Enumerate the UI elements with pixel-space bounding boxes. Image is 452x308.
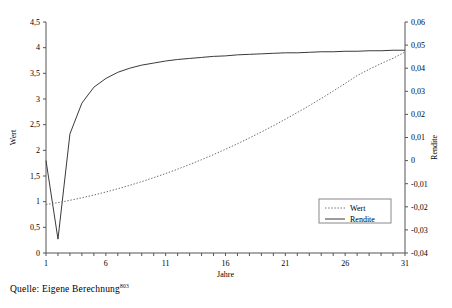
y-tick-label-left: 4: [36, 43, 40, 52]
y-tick-label-right: -0,01: [411, 180, 428, 189]
x-tick-label: 31: [401, 259, 409, 268]
y-tick-label-right: 0: [411, 156, 415, 165]
legend-label-wert: Wert: [350, 204, 366, 213]
y-tick-label-right: 0,03: [411, 87, 425, 96]
x-tick-label: 6: [104, 259, 108, 268]
chart-figure: 00,511,522,533,544,5-0,04-0,03-0,02-0,01…: [0, 0, 452, 308]
footnote-marker: 803: [120, 283, 129, 289]
y-tick-label-left: 2: [36, 146, 40, 155]
y-tick-label-left: 1: [36, 197, 40, 206]
y-axis-title-right: Rendite: [430, 135, 439, 160]
y-tick-label-left: 0: [36, 249, 40, 258]
x-tick-label: 16: [222, 259, 230, 268]
y-tick-label-left: 3: [36, 95, 40, 104]
x-tick-label: 21: [281, 259, 289, 268]
y-tick-label-right: -0,03: [411, 226, 428, 235]
y-tick-label-left: 2,5: [30, 120, 40, 129]
y-tick-label-left: 0,5: [30, 223, 40, 232]
y-tick-label-left: 1,5: [30, 172, 40, 181]
legend-label-rendite: Rendite: [350, 215, 375, 224]
x-tick-label: 1: [44, 259, 48, 268]
source-caption-text: Quelle: Eigene Berechnung: [10, 284, 120, 294]
y-tick-label-right: 0,05: [411, 41, 425, 50]
y-axis-title-left: Wert: [9, 129, 18, 145]
y-tick-label-right: -0,02: [411, 203, 428, 212]
y-tick-label-left: 3,5: [30, 69, 40, 78]
series-line-wert: [46, 52, 405, 204]
chart-plot: 00,511,522,533,544,5-0,04-0,03-0,02-0,01…: [0, 0, 452, 308]
source-caption: Quelle: Eigene Berechnung803: [10, 283, 129, 294]
y-tick-label-right: 0,06: [411, 18, 425, 27]
y-tick-label-right: 0,01: [411, 133, 425, 142]
x-axis-title: Jahre: [217, 270, 234, 279]
y-tick-label-right: -0,04: [411, 249, 428, 258]
x-tick-label: 11: [162, 259, 170, 268]
y-tick-label-right: 0,02: [411, 110, 425, 119]
x-tick-label: 26: [341, 259, 349, 268]
y-tick-label-right: 0,04: [411, 64, 425, 73]
y-tick-label-left: 4,5: [30, 18, 40, 27]
